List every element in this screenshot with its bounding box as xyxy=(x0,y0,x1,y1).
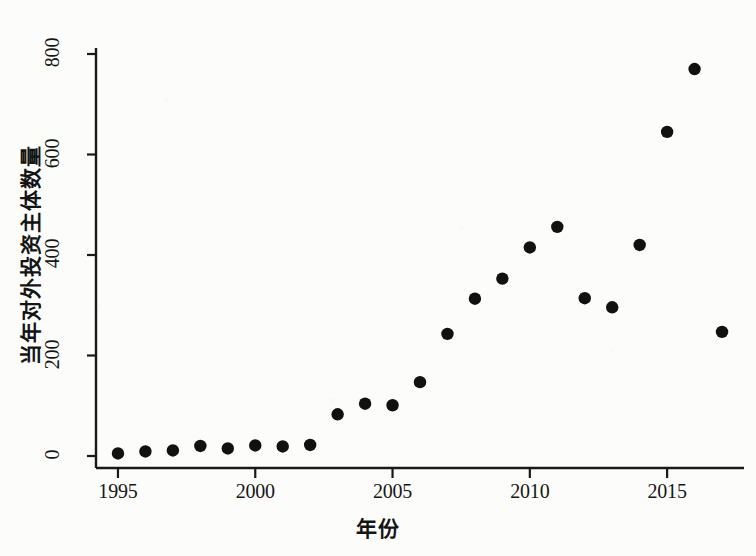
data-point xyxy=(524,241,536,253)
y-tick-label: 800 xyxy=(41,23,64,83)
scatter-chart-figure: 19952000200520102015 0200400600800 年份 当年… xyxy=(0,0,756,556)
x-tick-label: 1995 xyxy=(98,480,137,503)
data-point xyxy=(386,399,398,411)
y-axis-ticks xyxy=(87,54,96,456)
data-point xyxy=(716,326,728,338)
data-point xyxy=(469,293,481,305)
data-point xyxy=(551,221,563,233)
y-axis-title: 当年对外投资主体数量 xyxy=(14,145,44,365)
data-point xyxy=(688,63,700,75)
data-point xyxy=(441,328,453,340)
data-point xyxy=(359,398,371,410)
data-point xyxy=(496,272,508,284)
data-point xyxy=(112,447,124,459)
plot-canvas xyxy=(0,0,756,556)
data-point xyxy=(633,239,645,251)
data-point xyxy=(139,445,151,457)
data-point xyxy=(414,376,426,388)
data-point xyxy=(277,440,289,452)
data-point xyxy=(249,439,261,451)
data-point xyxy=(606,301,618,313)
data-point xyxy=(331,408,343,420)
data-point xyxy=(579,292,591,304)
data-point xyxy=(222,442,234,454)
data-point-group xyxy=(112,63,728,460)
data-point xyxy=(304,439,316,451)
y-tick-label: 0 xyxy=(41,425,64,485)
data-point xyxy=(661,126,673,138)
data-point xyxy=(194,440,206,452)
x-tick-label: 2010 xyxy=(510,480,549,503)
x-axis-ticks xyxy=(118,468,667,478)
x-tick-label: 2005 xyxy=(373,480,412,503)
data-point xyxy=(167,444,179,456)
x-axis-title: 年份 xyxy=(356,512,400,542)
x-tick-label: 2015 xyxy=(648,480,687,503)
x-tick-label: 2000 xyxy=(236,480,275,503)
